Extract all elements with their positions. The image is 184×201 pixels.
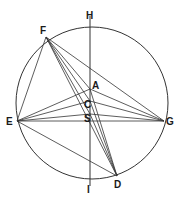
label-A: A	[92, 80, 99, 91]
segment-GA	[90, 89, 164, 121]
segment-EC	[17, 101, 90, 121]
segment-EA	[17, 89, 90, 121]
segment-GC	[90, 101, 164, 121]
segment-CD	[90, 101, 117, 176]
label-G: G	[166, 116, 174, 127]
segment-SD	[90, 114, 117, 176]
label-F: F	[40, 25, 46, 36]
label-S: S	[84, 113, 91, 124]
geometry-diagram: H F A C S E G D I	[0, 0, 184, 201]
label-H: H	[86, 10, 93, 21]
label-E: E	[6, 116, 13, 127]
label-D: D	[114, 179, 121, 190]
label-I: I	[87, 184, 90, 195]
circumcircle	[16, 27, 168, 179]
segment-GS	[90, 114, 164, 121]
segment-FC	[46, 37, 90, 101]
segment-FA	[46, 37, 90, 89]
segment-ED	[17, 121, 117, 176]
segment-FE	[17, 37, 46, 121]
segment-FD	[46, 37, 117, 176]
label-C: C	[84, 99, 91, 110]
segment-ES	[17, 114, 90, 121]
